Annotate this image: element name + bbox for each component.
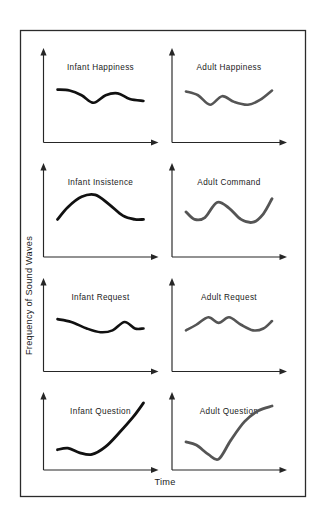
y-axis-arrow-icon (169, 278, 175, 286)
panel-adult-request: Adult Request (169, 278, 287, 375)
x-axis-arrow-icon (151, 254, 159, 260)
y-axis-label-text: Frequency of Sound Waves (24, 236, 34, 355)
figure-border (21, 31, 306, 497)
x-axis-label-text: Time (154, 477, 175, 487)
trace-adult-command (186, 199, 272, 223)
trace-adult-request (186, 317, 272, 330)
panel-title-infant-happiness: Infant Happiness (67, 63, 134, 72)
panel-infant-request: Infant Request (40, 278, 158, 375)
panels-layer: Infant HappinessAdult HappinessInfant In… (40, 48, 287, 473)
y-axis-arrow-icon (40, 392, 46, 400)
y-axis-label: Frequency of Sound Waves (24, 236, 34, 355)
y-axis-arrow-icon (40, 163, 46, 171)
trace-infant-request (58, 319, 144, 332)
y-axis-arrow-icon (169, 48, 175, 56)
trace-adult-happiness (186, 91, 272, 105)
x-axis-arrow-icon (151, 139, 159, 145)
panel-adult-command: Adult Command (169, 163, 287, 260)
y-axis-arrow-icon (169, 392, 175, 400)
panel-infant-happiness: Infant Happiness (40, 48, 158, 146)
panel-infant-insistence: Infant Insistence (40, 163, 158, 260)
y-axis-arrow-icon (40, 278, 46, 286)
x-axis-arrow-icon (280, 467, 288, 473)
sound-wave-figure: Frequency of Sound Waves Time Infant Hap… (0, 0, 320, 516)
panel-adult-happiness: Adult Happiness (169, 48, 287, 146)
x-axis-arrow-icon (151, 368, 159, 374)
x-axis-arrow-icon (151, 467, 159, 473)
x-axis-arrow-icon (280, 254, 288, 260)
panel-infant-question: Infant Question (40, 392, 158, 473)
y-axis-arrow-icon (169, 163, 175, 171)
trace-infant-happiness (58, 90, 144, 103)
panel-title-adult-happiness: Adult Happiness (197, 63, 262, 72)
y-axis-arrow-icon (40, 48, 46, 56)
panel-title-adult-question: Adult Question (200, 407, 259, 416)
panel-title-adult-command: Adult Command (197, 178, 260, 187)
x-axis-arrow-icon (280, 139, 288, 145)
trace-infant-insistence (58, 194, 144, 219)
panel-title-infant-question: Infant Question (70, 407, 131, 416)
panel-title-infant-insistence: Infant Insistence (68, 178, 134, 187)
panel-title-adult-request: Adult Request (201, 293, 257, 302)
panel-adult-question: Adult Question (169, 392, 287, 473)
figure-container: Frequency of Sound Waves Time Infant Hap… (0, 0, 320, 516)
x-axis-arrow-icon (280, 368, 288, 374)
panel-title-infant-request: Infant Request (71, 293, 130, 302)
